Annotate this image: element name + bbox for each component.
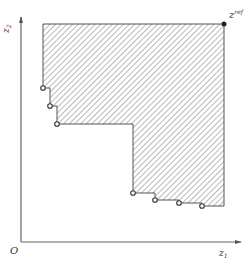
- pareto-point: [200, 204, 205, 209]
- reference-point: [222, 22, 227, 27]
- x-axis-label: z1: [218, 248, 228, 259]
- pareto-point: [153, 198, 158, 203]
- pareto-point: [177, 201, 182, 206]
- dominated-region: [43, 24, 224, 206]
- pareto-point: [131, 191, 136, 196]
- pareto-point: [48, 104, 53, 109]
- y-axis-label: z2: [1, 24, 12, 34]
- pareto-point: [41, 86, 46, 91]
- hypervolume-diagram: zref z2 z1 O: [0, 0, 250, 263]
- pareto-point: [55, 122, 60, 127]
- origin-label: O: [10, 245, 18, 256]
- reference-point-label: zref: [228, 8, 245, 20]
